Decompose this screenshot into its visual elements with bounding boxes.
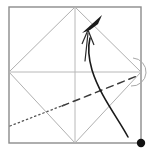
reference-markers-group [137, 139, 145, 147]
origami-diagram-figure [0, 0, 150, 154]
origami-diagram-canvas [0, 0, 150, 154]
reference-point-dot [137, 139, 145, 147]
